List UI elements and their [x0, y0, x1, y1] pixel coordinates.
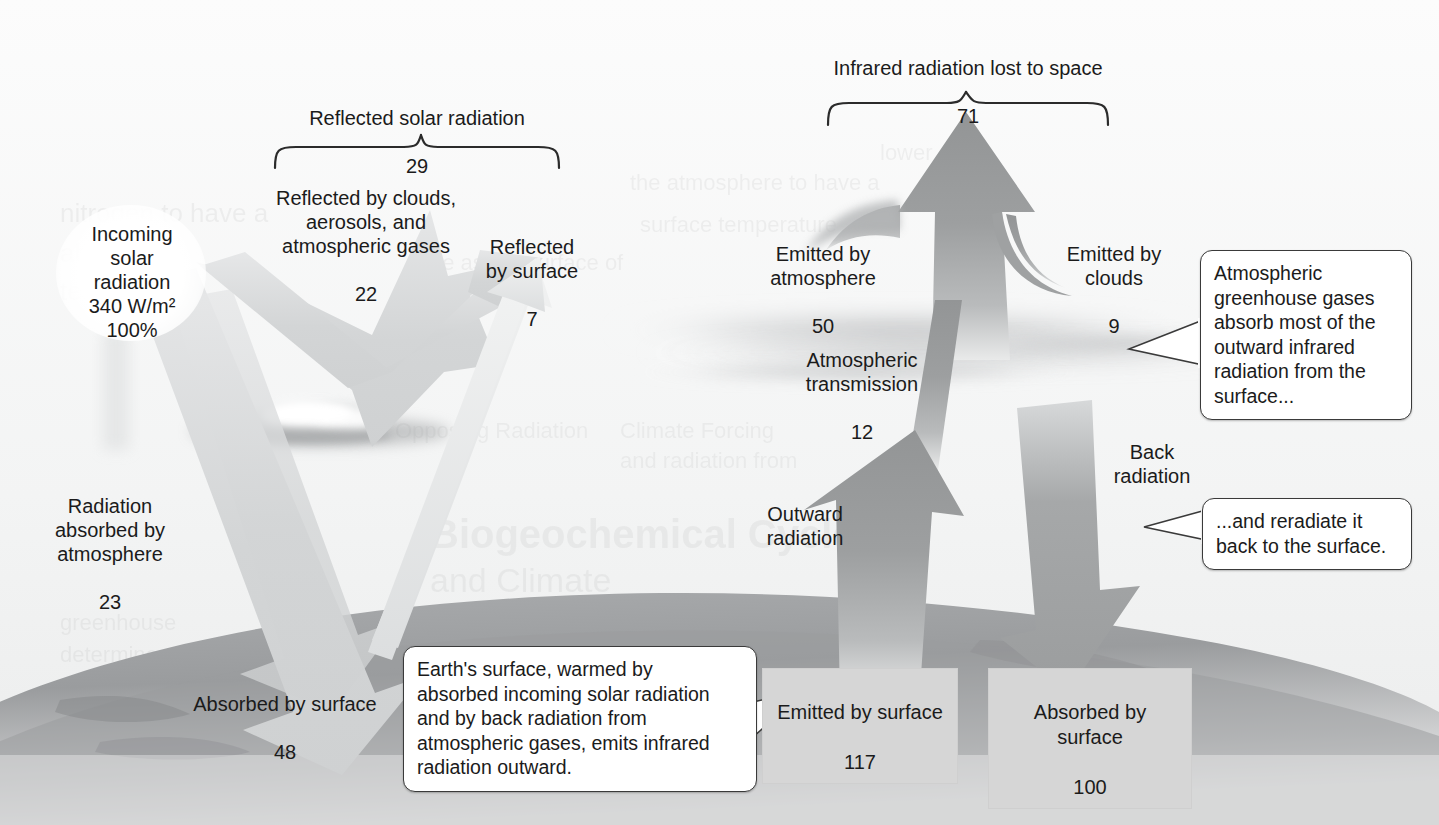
- callout-earth-surface: Earth's surface, warmed by absorbed inco…: [403, 646, 757, 792]
- label-emitted-by-clouds: Emitted by clouds 9: [1046, 218, 1182, 338]
- diagram-canvas: the atmosphere to have a lower surface t…: [0, 0, 1439, 825]
- ir-absorbed-surface-value: 100: [1073, 776, 1106, 798]
- label-solar-absorbed-by-surface: Absorbed by surface 48: [160, 668, 410, 764]
- emitted-clouds-value: 9: [1108, 315, 1119, 337]
- atmospheric-transmission-title: Atmospheric transmission: [806, 349, 918, 395]
- ir-lost-value: 71: [957, 105, 979, 127]
- label-infrared-lost-to-space: Infrared radiation lost to space 71: [790, 32, 1146, 128]
- label-incoming-solar-radiation: Incoming solar radiation 340 W/m² 100%: [56, 222, 208, 342]
- label-radiation-absorbed-by-atmosphere: Radiation absorbed by atmosphere 23: [30, 470, 190, 614]
- atmospheric-transmission-value: 12: [851, 421, 873, 443]
- label-reflected-by-surface: Reflected by surface 7: [472, 211, 592, 331]
- solar-absorbed-surface-title: Absorbed by surface: [193, 693, 376, 715]
- callout-greenhouse-gases: Atmospheric greenhouse gases absorb most…: [1200, 250, 1412, 420]
- reflected-surface-title: Reflected by surface: [486, 236, 578, 282]
- label-reflected-by-clouds: Reflected by clouds, aerosols, and atmos…: [256, 162, 476, 306]
- ir-lost-title: Infrared radiation lost to space: [833, 57, 1102, 79]
- emitted-atmosphere-title: Emitted by atmosphere: [770, 243, 876, 289]
- emitted-clouds-title: Emitted by clouds: [1067, 243, 1161, 289]
- emitted-surface-title: Emitted by surface: [777, 701, 943, 723]
- label-emitted-by-surface: Emitted by surface 117: [762, 668, 958, 784]
- callout-reradiate: ...and reradiate it back to the surface.: [1202, 498, 1412, 570]
- emitted-surface-value: 117: [844, 751, 876, 773]
- reflected-clouds-value: 22: [355, 283, 377, 305]
- label-emitted-by-atmosphere: Emitted by atmosphere 50: [750, 218, 896, 338]
- svg-text:lower: lower: [880, 140, 933, 165]
- svg-text:the atmosphere to have a: the atmosphere to have a: [630, 170, 880, 195]
- reflected-surface-value: 7: [526, 308, 537, 330]
- svg-text:Climate Forcing: Climate Forcing: [620, 418, 774, 443]
- svg-text:and radiation from: and radiation from: [620, 448, 797, 473]
- label-atmospheric-transmission: Atmospheric transmission 12: [782, 324, 942, 444]
- ir-absorbed-surface-title: Absorbed by surface: [1034, 701, 1146, 748]
- svg-text:and Climate: and Climate: [430, 561, 611, 599]
- solar-absorbed-surface-value: 48: [274, 741, 296, 763]
- absorbed-atmosphere-title: Radiation absorbed by atmosphere: [55, 495, 165, 565]
- label-ir-absorbed-by-surface: Absorbed by surface 100: [988, 668, 1192, 809]
- reflected-solar-title: Reflected solar radiation: [309, 107, 525, 129]
- label-outward-radiation: Outward radiation: [742, 502, 868, 550]
- label-back-radiation: Back radiation: [1096, 440, 1208, 488]
- absorbed-atmosphere-value: 23: [99, 591, 121, 613]
- reflected-clouds-title: Reflected by clouds, aerosols, and atmos…: [276, 187, 456, 257]
